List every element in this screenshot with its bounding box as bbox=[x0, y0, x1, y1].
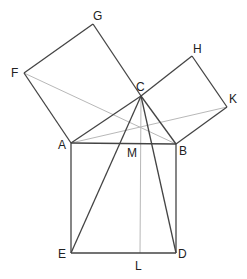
segment-CH bbox=[141, 56, 192, 96]
label-E: E bbox=[58, 247, 66, 261]
figure-edges bbox=[24, 24, 227, 253]
label-G: G bbox=[93, 9, 102, 23]
segment-AK bbox=[71, 107, 227, 143]
label-L: L bbox=[135, 259, 142, 273]
label-A: A bbox=[58, 138, 66, 152]
auxiliary-lines bbox=[24, 73, 227, 253]
label-F: F bbox=[11, 66, 18, 80]
label-C: C bbox=[136, 80, 145, 94]
pythagorean-proof-diagram: A B C D E F G H K L M bbox=[0, 0, 247, 279]
segment-GC bbox=[93, 24, 141, 96]
label-H: H bbox=[193, 42, 202, 56]
label-K: K bbox=[229, 92, 237, 106]
segment-FG bbox=[24, 24, 93, 73]
label-B: B bbox=[179, 144, 187, 158]
vertex-labels: A B C D E F G H K L M bbox=[11, 9, 237, 273]
segment-FB bbox=[24, 73, 176, 144]
label-M: M bbox=[127, 146, 137, 160]
segment-CL bbox=[140, 96, 141, 253]
segment-HK bbox=[192, 56, 227, 107]
label-D: D bbox=[178, 247, 187, 261]
segment-AB bbox=[71, 143, 176, 144]
